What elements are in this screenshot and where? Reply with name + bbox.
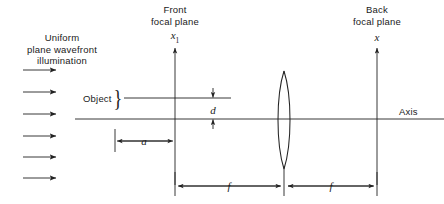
dimension-a-symbol: a — [141, 135, 147, 147]
object-brace: } — [114, 87, 123, 110]
plane-wave-arrows — [23, 70, 56, 178]
x1-axis-symbol: x1 — [171, 29, 180, 44]
object-label: Object — [83, 93, 112, 105]
dimension-d-symbol: d — [210, 104, 216, 116]
front-focal-plane-label: Front focal plane — [151, 4, 199, 27]
x1-symbol-subscript: 1 — [176, 36, 180, 45]
dimension-f-right-symbol: f — [329, 180, 332, 192]
f-extension-lines — [175, 169, 377, 196]
back-focal-plane-label: Back focal plane — [353, 4, 401, 27]
optics-diagram: Uniform plane wavefront illumination Fro… — [0, 0, 444, 204]
x-axis-symbol: x — [375, 31, 380, 43]
axis-label: Axis — [399, 106, 418, 118]
illumination-label: Uniform plane wavefront illumination — [27, 32, 97, 67]
dimension-f-left-symbol: f — [227, 180, 230, 192]
lens — [278, 71, 290, 169]
